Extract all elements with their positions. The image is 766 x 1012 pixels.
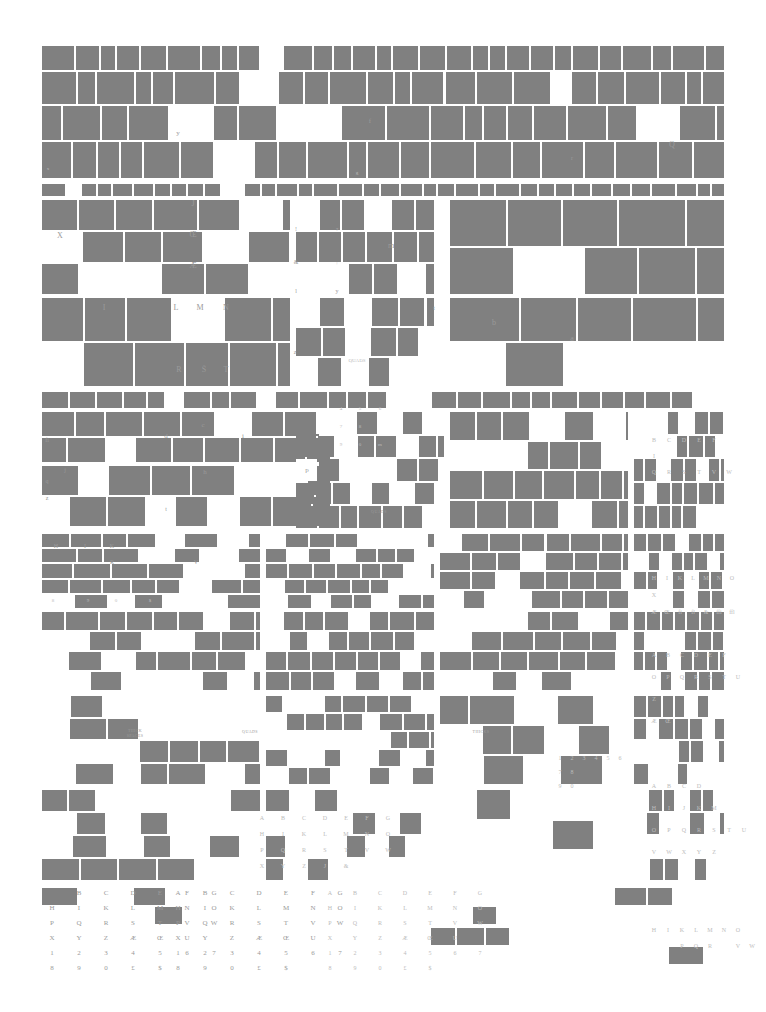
compartment-glyph-label: m <box>388 241 394 250</box>
type-compartment-filled <box>256 612 260 630</box>
type-compartment-filled <box>225 298 270 341</box>
type-compartment-filled <box>325 750 340 766</box>
type-compartment-empty <box>143 632 170 650</box>
compartment-glyph-label: X <box>328 935 332 941</box>
compartment-glyph-label: Q <box>669 140 675 149</box>
type-compartment-filled <box>136 652 157 670</box>
type-compartment-filled <box>136 72 151 104</box>
type-compartment-filled <box>648 534 661 551</box>
type-compartment-filled <box>173 438 203 462</box>
type-compartment-filled <box>698 184 710 196</box>
compartment-glyph-label: N <box>365 831 369 837</box>
type-compartment-empty <box>206 719 237 740</box>
type-compartment-filled <box>477 72 513 104</box>
type-compartment-filled <box>287 714 304 730</box>
type-compartment-filled <box>329 632 347 650</box>
type-compartment-empty <box>656 412 665 434</box>
type-compartment-filled <box>343 232 365 262</box>
compartment-glyph-label: t <box>433 304 435 312</box>
type-compartment-filled <box>532 392 550 408</box>
compartment-glyph-label: THICKS <box>473 729 490 734</box>
type-compartment-filled <box>484 106 505 140</box>
type-compartment-filled <box>312 652 333 670</box>
type-compartment-empty <box>432 696 434 712</box>
type-compartment-empty <box>80 264 118 294</box>
type-compartment-filled <box>440 572 470 589</box>
type-compartment-empty <box>296 264 321 294</box>
type-compartment-empty <box>289 750 305 766</box>
type-compartment-filled <box>158 859 194 880</box>
compartment-glyph-label: QUADS <box>348 358 365 363</box>
type-compartment-filled <box>615 888 645 905</box>
type-compartment-filled <box>42 142 71 178</box>
type-compartment-empty <box>686 696 697 717</box>
type-compartment-filled <box>493 672 516 690</box>
type-compartment-empty <box>405 928 429 945</box>
type-compartment-filled <box>513 142 540 178</box>
type-compartment-empty <box>330 859 354 880</box>
type-compartment-filled <box>300 392 327 408</box>
compartment-glyph-label: U <box>310 934 315 942</box>
type-compartment-empty <box>440 790 475 819</box>
type-compartment-filled <box>690 719 701 740</box>
type-compartment-empty <box>226 859 260 880</box>
compartment-glyph-label: 8 <box>50 964 54 972</box>
type-compartment-empty <box>355 859 374 880</box>
compartment-glyph-label: y <box>336 288 339 294</box>
type-compartment-empty <box>241 200 281 230</box>
type-compartment-empty <box>671 907 695 924</box>
compartment-glyph-label: X <box>57 231 63 240</box>
type-compartment-filled <box>84 343 133 386</box>
type-compartment-empty <box>215 142 253 178</box>
type-compartment-empty <box>336 672 354 690</box>
type-compartment-filled <box>391 732 407 748</box>
type-compartment-filled <box>68 438 105 462</box>
type-compartment-filled <box>358 652 378 670</box>
type-compartment-filled <box>325 612 348 630</box>
compartment-glyph-label: 9 <box>77 964 81 972</box>
type-compartment-empty <box>79 888 104 905</box>
type-compartment-filled <box>552 612 578 630</box>
type-compartment-empty <box>266 768 287 784</box>
type-compartment-filled <box>69 652 100 670</box>
compartment-glyph-label: E <box>708 652 712 658</box>
compartment-glyph-label: j <box>64 467 66 473</box>
type-compartment-filled <box>372 483 390 505</box>
type-compartment-empty <box>556 790 592 819</box>
compartment-glyph-label: A <box>652 652 656 658</box>
type-compartment-empty <box>103 652 134 670</box>
type-compartment-empty <box>404 534 426 547</box>
type-compartment-filled <box>703 72 724 104</box>
type-compartment-filled <box>349 264 372 294</box>
compartment-glyph-label: 3 <box>104 949 108 957</box>
type-compartment-filled <box>508 200 561 246</box>
type-compartment-filled <box>416 200 434 230</box>
type-compartment-empty <box>416 549 434 562</box>
type-compartment-empty <box>201 549 236 562</box>
compartment-glyph-label: ! <box>295 226 297 232</box>
compartment-glyph-label: Œ <box>664 609 669 615</box>
compartment-glyph-label: L <box>174 303 179 312</box>
type-compartment-empty <box>526 947 550 964</box>
type-compartment-empty <box>522 553 543 570</box>
type-compartment-empty <box>615 907 643 924</box>
type-compartment-empty <box>108 836 142 857</box>
type-compartment-empty <box>42 672 64 690</box>
type-compartment-filled <box>663 534 675 551</box>
type-compartment-filled <box>296 412 314 434</box>
type-compartment-filled <box>136 438 171 462</box>
type-compartment-empty <box>472 888 502 905</box>
type-compartment-empty <box>414 947 450 964</box>
type-compartment-filled <box>534 106 566 140</box>
type-compartment-filled <box>273 298 290 341</box>
compartment-glyph-label: 1 <box>50 949 54 957</box>
type-compartment-empty <box>42 652 67 670</box>
type-compartment-filled <box>348 392 366 408</box>
type-compartment-empty <box>115 764 139 785</box>
type-compartment-filled <box>144 836 170 857</box>
type-compartment-empty <box>65 632 88 650</box>
compartment-glyph-label: q <box>46 478 49 484</box>
compartment-glyph-label: 2 <box>77 949 81 957</box>
compartment-glyph-label: E <box>697 437 701 443</box>
type-compartment-empty <box>669 652 678 670</box>
